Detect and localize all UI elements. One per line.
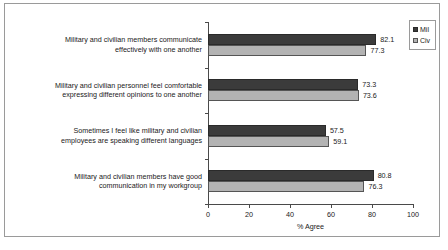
x-axis-tick-label: 60 bbox=[319, 210, 343, 219]
bar-value-label: 82.1 bbox=[380, 34, 394, 45]
bar-civ bbox=[208, 136, 329, 147]
category-label: Military and civilian members communicat… bbox=[13, 35, 202, 54]
x-axis-tick-label: 40 bbox=[278, 210, 302, 219]
x-axis-title: % Agree bbox=[208, 222, 413, 231]
x-axis-tick-label: 0 bbox=[196, 210, 220, 219]
bar-value-label: 80.8 bbox=[378, 170, 392, 181]
legend-swatch-icon bbox=[413, 27, 418, 32]
x-axis-line bbox=[208, 204, 414, 205]
chart-figure: Military and civilian members communicat… bbox=[4, 3, 440, 237]
bar-value-label: 59.1 bbox=[333, 136, 347, 147]
x-axis-tick bbox=[413, 205, 414, 208]
x-axis-tick bbox=[249, 205, 250, 208]
bar-value-label: 57.5 bbox=[330, 125, 344, 136]
bar-civ bbox=[208, 181, 364, 192]
legend-swatch-icon bbox=[413, 38, 418, 43]
chart-legend: MilCiv bbox=[409, 20, 436, 50]
bar-mil bbox=[208, 125, 326, 136]
x-axis-tick-label: 100 bbox=[401, 210, 425, 219]
bar-value-label: 73.6 bbox=[363, 90, 377, 101]
bar-civ bbox=[208, 90, 359, 101]
bar-mil bbox=[208, 79, 358, 90]
y-axis-tick bbox=[205, 22, 208, 23]
category-label: Military and civilian members have good … bbox=[13, 172, 202, 191]
category-label: Sometimes I feel like military and civil… bbox=[13, 126, 202, 145]
bar-mil bbox=[208, 34, 376, 45]
x-axis-tick-label: 20 bbox=[237, 210, 261, 219]
x-axis-tick-label: 80 bbox=[360, 210, 384, 219]
x-axis-tick bbox=[331, 205, 332, 208]
plot-area: 82.177.373.373.657.559.180.876.3 0204060… bbox=[208, 22, 413, 204]
legend-item-mil[interactable]: Mil bbox=[413, 24, 433, 35]
y-axis-tick bbox=[205, 159, 208, 160]
category-axis-labels: Military and civilian members communicat… bbox=[13, 22, 202, 204]
y-axis-tick bbox=[205, 68, 208, 69]
category-label: Military and civilian personnel feel com… bbox=[13, 81, 202, 100]
x-axis-tick bbox=[372, 205, 373, 208]
x-axis-tick bbox=[290, 205, 291, 208]
bar-civ bbox=[208, 45, 366, 56]
bar-value-label: 77.3 bbox=[370, 45, 384, 56]
legend-label: Civ bbox=[420, 36, 430, 45]
legend-item-civ[interactable]: Civ bbox=[413, 35, 433, 46]
bar-value-label: 73.3 bbox=[362, 79, 376, 90]
legend-label: Mil bbox=[420, 25, 429, 34]
y-axis-tick bbox=[205, 113, 208, 114]
x-axis-tick bbox=[208, 205, 209, 208]
bar-value-label: 76.3 bbox=[368, 181, 382, 192]
bar-mil bbox=[208, 170, 374, 181]
